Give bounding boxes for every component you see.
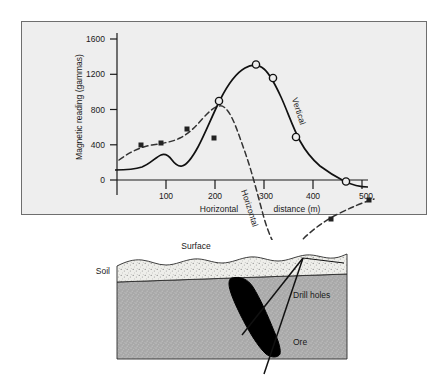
label-ore: Ore <box>293 337 307 347</box>
magnetic-reading-chart: 1600 1200 800 400 0 100 200 300 400 500 … <box>0 0 445 240</box>
horizontal-marker <box>159 141 164 146</box>
horizontal-marker <box>212 136 217 141</box>
y-axis-title: Magnetic reading (gammas) <box>74 54 84 160</box>
vertical-marker <box>252 61 259 68</box>
x-tick-label-300: 300 <box>259 191 273 201</box>
y-tick-label-0: 0 <box>100 175 105 185</box>
vertical-marker <box>269 74 276 81</box>
horizontal-marker <box>329 217 334 222</box>
ore-body-cross-section: Surface Soil Drill holes Ore <box>0 232 445 389</box>
vertical-marker <box>215 97 222 104</box>
series-vertical <box>115 61 368 187</box>
y-tick-label-800: 800 <box>91 105 105 115</box>
magnetic-survey-figure: 1600 1200 800 400 0 100 200 300 400 500 … <box>0 0 445 389</box>
x-tick-label-400: 400 <box>306 191 320 201</box>
y-tick-label-400: 400 <box>91 140 105 150</box>
label-surface: Surface <box>181 241 211 251</box>
label-drill-holes: Drill holes <box>293 290 330 300</box>
y-tick-label-1600: 1600 <box>86 34 105 44</box>
chart-axes <box>110 33 368 195</box>
vertical-curve-path <box>115 65 368 187</box>
horizontal-marker <box>367 198 372 203</box>
x-axis-title-right: distance (m) <box>274 204 321 214</box>
horizontal-marker <box>185 127 190 132</box>
x-tick-label-200: 200 <box>208 191 222 201</box>
vertical-curve-label: Vertical <box>290 96 308 126</box>
y-tick-label-1200: 1200 <box>86 69 105 79</box>
x-axis-title-left: Horizontal <box>200 204 238 214</box>
label-soil: Soil <box>96 266 110 276</box>
vertical-marker <box>292 133 299 140</box>
horizontal-marker <box>139 143 144 148</box>
series-horizontal <box>119 106 374 240</box>
x-tick-label-100: 100 <box>159 191 173 201</box>
vertical-marker <box>342 178 349 185</box>
horizontal-curve-path <box>119 106 374 240</box>
